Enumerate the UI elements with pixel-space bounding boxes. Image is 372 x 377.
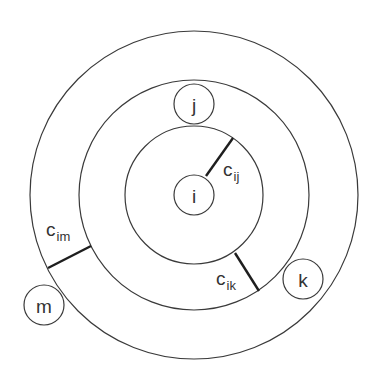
concentric-rings-diagram: ijkm cijcikcim (0, 0, 372, 377)
edge-labels-group: cijcikcim (46, 159, 239, 293)
edge-label-subscript: ik (227, 278, 237, 293)
node-i: i (174, 175, 214, 215)
node-i-label: i (192, 186, 196, 207)
edge-c-ik (235, 253, 259, 291)
node-j-label: j (191, 95, 196, 116)
node-j: j (174, 84, 214, 124)
edge-label-c-ik: cik (216, 268, 236, 293)
edge-label-c-im: cim (46, 219, 70, 244)
edge-c-im (48, 246, 91, 268)
edge-label-main: c (223, 159, 233, 180)
edge-label-subscript: im (57, 229, 71, 244)
node-k-label: k (298, 270, 308, 291)
edge-label-main: c (46, 219, 56, 240)
edge-label-c-ij: cij (223, 159, 239, 184)
node-m-label: m (36, 296, 52, 317)
edge-label-main: c (216, 268, 226, 289)
node-k: k (283, 259, 323, 299)
edge-label-subscript: ij (234, 169, 240, 184)
node-m: m (24, 285, 64, 325)
nodes-group: ijkm (24, 84, 323, 325)
